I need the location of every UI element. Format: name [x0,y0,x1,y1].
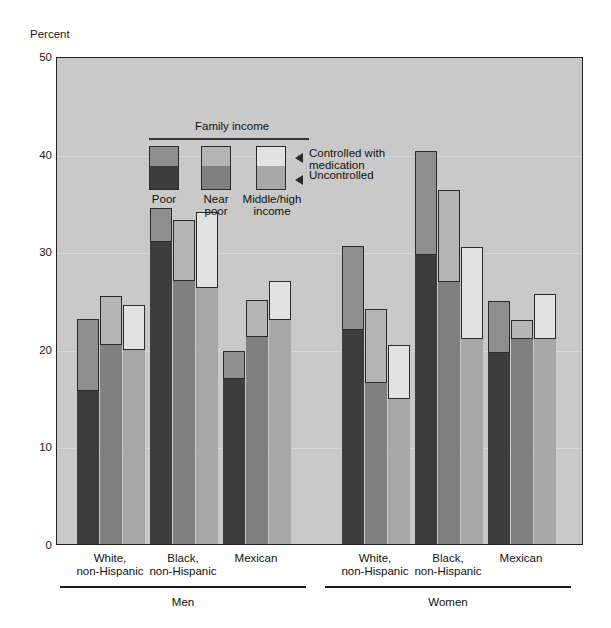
bar-poor [77,319,99,544]
bar-near-poor [246,300,268,544]
bar-segment-uncontrolled [173,280,195,544]
bar-segment-uncontrolled [196,287,218,544]
bar-segment-uncontrolled [365,382,387,544]
legend-note-controlled: Controlled with medication [309,147,385,171]
bar-near-poor [173,220,195,544]
bar-segment-uncontrolled [534,338,556,544]
chart-page: Percent 01020304050 Family income Poor N… [0,0,611,628]
bar-segment-uncontrolled [511,338,533,544]
bar-segment-uncontrolled [246,336,268,544]
legend-title: Family income [195,120,269,132]
bar-segment-uncontrolled [269,319,291,544]
bar-near-poor [511,320,533,544]
bar-middle-high-income [534,294,556,544]
bar-segment-uncontrolled [100,344,122,544]
bar-middle-high-income [461,247,483,544]
y-tick-label: 10 [18,441,52,453]
gridline [57,253,582,254]
chart-legend: Family income Poor Near poor [131,120,381,206]
bar-middle-high-income [196,212,218,544]
bar-near-poor [365,309,387,544]
bar-poor [488,301,510,544]
y-axis: 01020304050 [14,57,52,545]
bar-near-poor [438,190,460,544]
bar-poor [342,246,364,544]
y-tick-label: 50 [18,51,52,63]
y-tick-label: 20 [18,344,52,356]
bar-segment-uncontrolled [388,398,410,544]
supergroup-rule [60,586,306,588]
arrow-uncontrolled-icon [295,175,303,185]
legend-label-near-poor: Near poor [189,194,243,217]
legend-label-poor: Poor [137,194,191,206]
supergroup-label: Women [325,596,571,608]
legend-underline [149,138,309,140]
legend-swatch-near-poor [201,146,231,190]
legend-label-middle-high: Middle/high income [239,194,305,217]
legend-swatch-poor [149,146,179,190]
bar-segment-uncontrolled [461,338,483,544]
bar-segment-uncontrolled [415,254,437,544]
supergroup-rule [325,586,571,588]
bar-segment-uncontrolled [77,390,99,544]
y-axis-title: Percent [30,28,70,40]
arrow-controlled-icon [295,153,303,163]
bar-poor [150,208,172,544]
bar-poor [223,351,245,544]
bar-middle-high-income [388,345,410,544]
bar-segment-uncontrolled [488,352,510,544]
x-group-label: Mexican [211,552,301,565]
bar-poor [415,151,437,544]
bar-near-poor [100,296,122,544]
y-tick-label: 40 [18,149,52,161]
y-tick-label: 0 [18,539,52,551]
bar-segment-uncontrolled [438,281,460,544]
bar-segment-uncontrolled [150,241,172,544]
legend-note-uncontrolled: Uncontrolled [309,169,374,181]
bar-middle-high-income [123,305,145,544]
bar-segment-uncontrolled [123,349,145,544]
y-tick-label: 30 [18,246,52,258]
bar-segment-uncontrolled [223,378,245,544]
bar-segment-uncontrolled [342,329,364,544]
supergroup-label: Men [60,596,306,608]
legend-swatch-middle-high [256,146,286,190]
bar-middle-high-income [269,281,291,544]
plot-area: Family income Poor Near poor [56,57,583,545]
x-group-label: Mexican [476,552,566,565]
